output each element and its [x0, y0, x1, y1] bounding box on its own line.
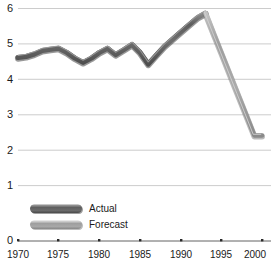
x-tick-label-1975: 1975	[41, 249, 75, 260]
x-tick-1975	[57, 239, 59, 241]
chart-container: 6 5 4 3 2 1 0 1970 1975 1980 1985 1990 1…	[0, 0, 272, 264]
x-tick-label-1985: 1985	[123, 249, 157, 260]
series-forecast	[204, 12, 262, 137]
y-tick-label-1: 1	[0, 180, 13, 191]
x-tick-1985	[139, 239, 141, 241]
y-tick-label-6: 6	[0, 3, 13, 14]
legend-label-forecast: Forecast	[89, 219, 128, 230]
y-tick-label-3: 3	[0, 109, 13, 120]
gridlines	[18, 9, 271, 186]
x-tick-label-1995: 1995	[204, 249, 238, 260]
legend-swatch-actual	[30, 205, 83, 215]
x-tick-1990	[180, 239, 182, 241]
x-tick-1995	[220, 239, 222, 241]
x-tick-1980	[98, 239, 100, 241]
chart-plot-area	[0, 0, 272, 264]
series-forecast-body	[206, 13, 262, 135]
legend-swatch-forecast	[30, 221, 83, 231]
series-actual	[18, 11, 206, 65]
x-tick-label-1990: 1990	[164, 249, 198, 260]
x-tick-1970	[17, 239, 19, 241]
y-tick-label-4: 4	[0, 74, 13, 85]
y-tick-label-5: 5	[0, 38, 13, 49]
legend-label-actual: Actual	[89, 203, 117, 214]
x-tick-label-1980: 1980	[82, 249, 116, 260]
series-actual-shadow	[18, 14, 206, 65]
x-tick-label-1970: 1970	[1, 249, 35, 260]
x-tick-label-2000: 2000	[238, 249, 272, 260]
x-tick-2000	[261, 239, 263, 241]
y-tick-label-2: 2	[0, 145, 13, 156]
y-tick-label-0: 0	[0, 235, 13, 246]
